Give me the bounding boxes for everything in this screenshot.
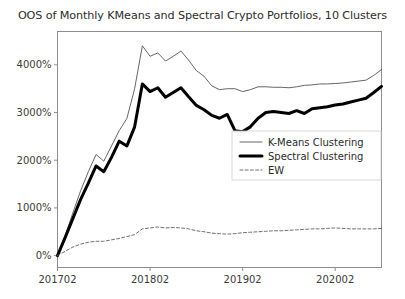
y-tick-label: 0% bbox=[36, 250, 52, 261]
x-tick-label: 201702 bbox=[38, 274, 76, 285]
y-tick-label: 1000% bbox=[17, 202, 52, 213]
chart-figure: OOS of Monthly KMeans and Spectral Crypt… bbox=[0, 0, 405, 299]
chart-legend[interactable]: K-Means ClusteringSpectral ClusteringEW bbox=[232, 131, 381, 180]
line-chart-plot: 0%1000%2000%3000%4000% 20170220180220190… bbox=[0, 0, 405, 299]
y-tick-label: 3000% bbox=[17, 107, 52, 118]
x-tick-label: 202002 bbox=[316, 274, 354, 285]
legend-label: Spectral Clustering bbox=[268, 151, 363, 162]
x-tick-label: 201902 bbox=[224, 274, 262, 285]
legend-label: K-Means Clustering bbox=[268, 137, 364, 148]
legend-label: EW bbox=[268, 165, 284, 176]
y-tick-label: 2000% bbox=[17, 155, 52, 166]
y-axis-ticks: 0%1000%2000%3000%4000% bbox=[17, 59, 58, 261]
y-tick-label: 4000% bbox=[17, 59, 52, 70]
series-line-ew bbox=[58, 227, 382, 256]
x-axis-ticks: 201702201802201902202002 bbox=[38, 268, 354, 285]
x-tick-label: 201802 bbox=[131, 274, 169, 285]
